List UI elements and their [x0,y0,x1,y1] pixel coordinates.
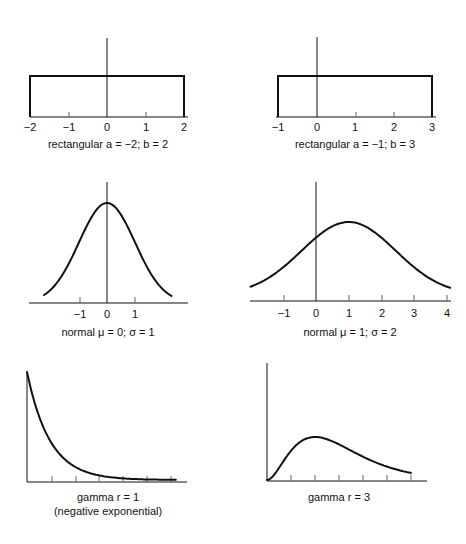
panel-caption: normal μ = 0; σ = 1 [61,326,154,338]
panel-rectangular-2: −1 0 1 2 3 rectangular a = −1; b = 3 [272,37,436,150]
panel-rectangular-1: −2 −1 0 1 2 rectangular a = −2; b = 2 [24,38,188,150]
tick-label: 1 [143,121,149,133]
tick-label: 2 [391,121,397,133]
tick-label: −1 [272,121,285,133]
tick-label: −1 [278,307,291,319]
tick-label: 4 [444,307,450,319]
tick-label: 0 [104,121,110,133]
tick-label: 1 [132,308,138,320]
tick-label: −2 [24,121,37,133]
density-curve [267,437,411,480]
panel-normal-2: −1 0 1 2 3 4 normal μ = 1; σ = 2 [250,182,451,338]
tick-label: −1 [63,121,76,133]
panel-gamma-1: gamma r = 1 (negative exponential) [27,372,187,517]
density-curve [44,203,171,296]
density-curve [251,222,451,288]
tick-label: 1 [346,307,352,319]
tick-label: 2 [379,307,385,319]
panel-caption: gamma r = 3 [308,491,370,503]
panel-caption: gamma r = 1 [77,491,139,503]
tick-label: −1 [74,308,87,320]
density-rectangle [278,76,432,117]
panel-normal-1: −1 0 1 normal μ = 0; σ = 1 [29,182,188,338]
panel-gamma-3: gamma r = 3 [267,363,427,503]
tick-label: 0 [313,307,319,319]
tick-label: 3 [411,307,417,319]
density-curve [27,372,176,480]
panel-subcaption: (negative exponential) [54,505,162,517]
tick-label: 0 [104,308,110,320]
panel-caption: normal μ = 1; σ = 2 [303,326,396,338]
panel-caption: rectangular a = −2; b = 2 [48,138,168,150]
tick-label: 1 [352,121,358,133]
panel-caption: rectangular a = −1; b = 3 [295,138,415,150]
distribution-figure: −2 −1 0 1 2 rectangular a = −2; b = 2 −1… [0,0,466,544]
tick-label: 2 [181,121,187,133]
tick-label: 3 [429,121,435,133]
tick-label: 0 [314,121,320,133]
